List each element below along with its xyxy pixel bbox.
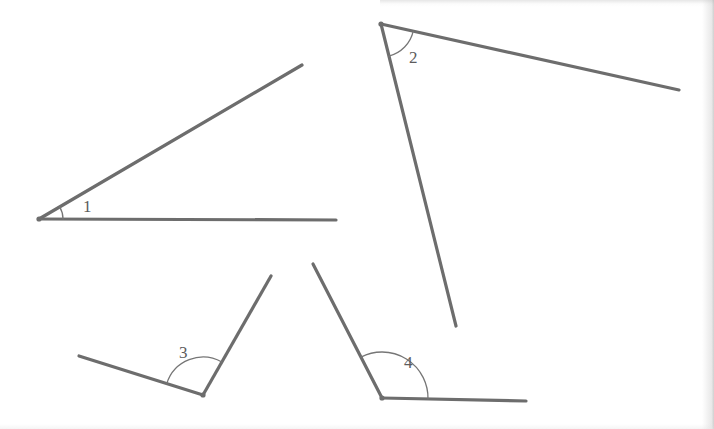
angle-4-label: 4 [404, 353, 413, 372]
angle-1-horizontal-ray [39, 219, 336, 220]
angle-1-vertex-dot [36, 216, 41, 221]
angle-4-vertex-dot [379, 395, 384, 400]
angle-3-label: 3 [179, 343, 188, 362]
worksheet-canvas: 1 2 3 4 [0, 0, 714, 429]
angle-1-label: 1 [83, 197, 92, 216]
angle-2-label: 2 [409, 48, 418, 67]
angle-3-upper-right-ray [203, 276, 271, 395]
angle-1-arc [60, 207, 63, 219]
angle-3-vertex-dot [200, 392, 205, 397]
angle-2-down-ray [381, 24, 456, 326]
angle-1-group[interactable]: 1 [36, 65, 336, 222]
angle-4-horizontal-right-ray [382, 398, 526, 401]
angle-2-group[interactable]: 2 [378, 21, 679, 326]
angle-1-upper-ray [39, 65, 302, 219]
angle-4-group[interactable]: 4 [313, 264, 526, 401]
angle-4-upper-left-ray [313, 264, 382, 398]
angle-2-right-ray [381, 24, 679, 90]
angles-figure: 1 2 3 4 [0, 0, 714, 429]
angle-2-vertex-dot [378, 21, 383, 26]
angle-3-group[interactable]: 3 [79, 276, 271, 398]
